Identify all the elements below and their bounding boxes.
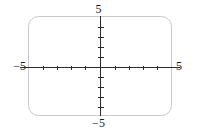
x-axis-min-label: −5: [2, 60, 26, 72]
coordinate-plane-figure: 5 −5 −5 5: [0, 0, 197, 133]
plot-canvas: [0, 0, 197, 133]
y-axis-max-label: 5: [0, 3, 197, 15]
y-axis-min-label: −5: [0, 117, 197, 129]
x-axis-max-label: 5: [176, 60, 196, 72]
